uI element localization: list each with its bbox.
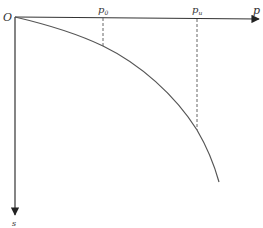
p0-label: p0	[98, 4, 108, 16]
pu-label-subscript: u	[198, 9, 202, 16]
p-axis-label: p	[253, 4, 260, 17]
p-s-diagram: O p s p0 pu	[0, 0, 263, 228]
p0-label-subscript: 0	[104, 9, 108, 16]
s-axis-label: s	[12, 219, 16, 228]
p-axis	[15, 17, 259, 19]
load-settlement-curve	[15, 17, 219, 182]
pu-label: pu	[192, 4, 202, 16]
origin-label: O	[3, 11, 12, 24]
